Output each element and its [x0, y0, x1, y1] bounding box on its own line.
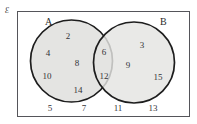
venn-member-b-only: 3 — [140, 41, 145, 50]
set-b-label: B — [160, 17, 167, 27]
venn-member-b-only: 9 — [126, 61, 131, 70]
venn-member-intersection: 12 — [100, 72, 109, 81]
venn-member-outside: 13 — [149, 104, 158, 113]
venn-member-a-only: 14 — [74, 86, 83, 95]
venn-member-b-only: 15 — [154, 73, 163, 82]
venn-member-outside: 11 — [114, 104, 123, 113]
venn-member-intersection: 6 — [102, 48, 107, 57]
venn-member-a-only: 8 — [75, 59, 80, 68]
set-a-label: A — [45, 17, 52, 27]
venn-member-a-only: 4 — [46, 49, 51, 58]
venn-member-outside: 7 — [82, 104, 87, 113]
venn-member-outside: 5 — [48, 104, 53, 113]
set-b-circle — [94, 22, 175, 103]
venn-circles-svg — [0, 0, 197, 124]
venn-diagram-figure: Ɛ A B 24810146123915571113 — [0, 0, 197, 124]
venn-member-a-only: 2 — [66, 32, 71, 41]
venn-member-a-only: 10 — [43, 72, 52, 81]
